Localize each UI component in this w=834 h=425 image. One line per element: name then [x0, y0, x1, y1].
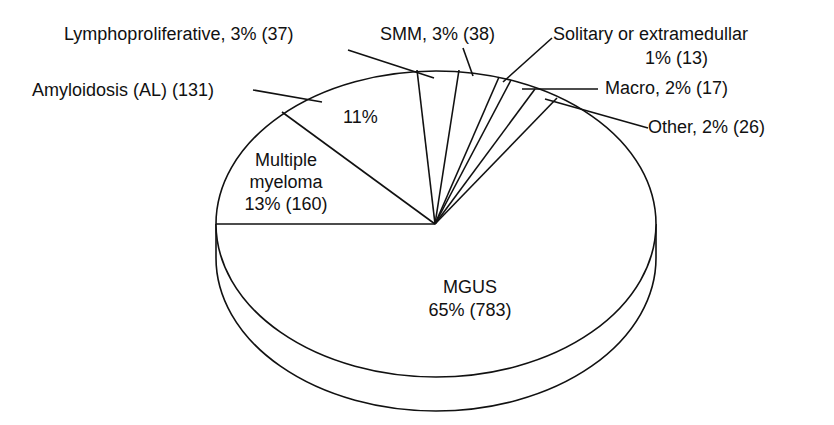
label-multiple-myeloma-line1: Multiple [231, 150, 341, 170]
label-macro: Macro, 2% (17) [605, 78, 728, 98]
leader-amyloid [253, 90, 322, 102]
label-multiple-myeloma-line2: myeloma [231, 172, 341, 192]
pie-chart: Lymphoproliferative, 3% (37) SMM, 3% (38… [0, 0, 834, 425]
label-solitary-line1: Solitary or extramedullar [553, 24, 748, 44]
label-solitary-line2: 1% (13) [645, 48, 708, 68]
label-lymphoproliferative: Lymphoproliferative, 3% (37) [64, 24, 293, 44]
label-smm: SMM, 3% (38) [380, 24, 495, 44]
leader-solitary [503, 38, 552, 82]
label-mgus-line2: 65% (783) [405, 300, 535, 320]
label-amyloidosis-pct: 11% [343, 107, 378, 127]
pie-graphic [0, 0, 834, 425]
label-mgus-line1: MGUS [405, 277, 535, 297]
label-amyloidosis: Amyloidosis (AL) (131) [32, 80, 214, 100]
label-multiple-myeloma-line3: 13% (160) [231, 194, 341, 214]
label-other: Other, 2% (26) [648, 117, 765, 137]
